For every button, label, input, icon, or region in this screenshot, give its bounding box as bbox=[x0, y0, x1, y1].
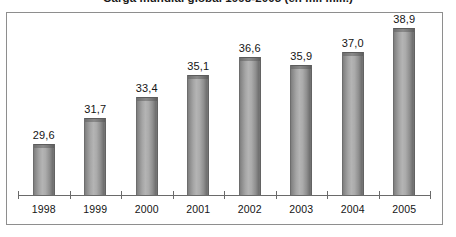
bar-value-label: 35,1 bbox=[187, 60, 209, 72]
bar-group[interactable]: 31,71999 bbox=[72, 0, 118, 237]
bar-group[interactable]: 35,92003 bbox=[278, 0, 324, 237]
bar-group[interactable]: 38,92005 bbox=[381, 0, 427, 237]
bar[interactable] bbox=[33, 144, 55, 195]
x-axis-tick bbox=[18, 191, 19, 199]
bar[interactable] bbox=[393, 28, 415, 195]
bar-cap bbox=[240, 57, 260, 61]
x-axis-tick bbox=[327, 191, 328, 199]
bar-value-label: 35,9 bbox=[290, 50, 312, 62]
x-axis-tick bbox=[70, 191, 71, 199]
bar-group[interactable]: 36,62002 bbox=[227, 0, 273, 237]
bar-group[interactable]: 33,42000 bbox=[124, 0, 170, 237]
bar-cap bbox=[394, 28, 414, 32]
x-axis-tick bbox=[173, 191, 174, 199]
x-axis-category-label: 2003 bbox=[289, 203, 313, 215]
x-axis-tick bbox=[121, 191, 122, 199]
bar-cap bbox=[291, 65, 311, 69]
bar-value-label: 33,4 bbox=[136, 82, 158, 94]
bar-group[interactable]: 37,02004 bbox=[330, 0, 376, 237]
x-axis-category-label: 1998 bbox=[32, 203, 56, 215]
bar-cap bbox=[34, 144, 54, 148]
bar-group[interactable]: 35,12001 bbox=[175, 0, 221, 237]
bar-value-label: 36,6 bbox=[239, 42, 261, 54]
bar[interactable] bbox=[290, 65, 312, 195]
bar[interactable] bbox=[187, 75, 209, 195]
bar-cap bbox=[85, 118, 105, 122]
plot-area: 29,6199831,7199933,4200035,1200136,62002… bbox=[0, 0, 456, 237]
x-axis-category-label: 1999 bbox=[83, 203, 107, 215]
bar-value-label: 29,6 bbox=[33, 129, 55, 141]
x-axis-tick bbox=[430, 191, 431, 199]
bar[interactable] bbox=[342, 52, 364, 195]
bar-group[interactable]: 29,61998 bbox=[21, 0, 67, 237]
x-axis-category-label: 2004 bbox=[341, 203, 365, 215]
bar[interactable] bbox=[239, 57, 261, 195]
bar-cap bbox=[343, 52, 363, 56]
bar[interactable] bbox=[136, 97, 158, 195]
x-axis-category-label: 2001 bbox=[186, 203, 210, 215]
x-axis-tick bbox=[224, 191, 225, 199]
x-axis-tick bbox=[379, 191, 380, 199]
x-axis-tick bbox=[276, 191, 277, 199]
bar-cap bbox=[188, 75, 208, 79]
x-axis-category-label: 2005 bbox=[392, 203, 416, 215]
bar-value-label: 38,9 bbox=[393, 13, 415, 25]
bar[interactable] bbox=[84, 118, 106, 195]
x-axis-category-label: 2000 bbox=[135, 203, 159, 215]
x-axis-category-label: 2002 bbox=[238, 203, 262, 215]
bar-value-label: 31,7 bbox=[84, 103, 106, 115]
bar-cap bbox=[137, 97, 157, 101]
bar-value-label: 37,0 bbox=[342, 37, 364, 49]
